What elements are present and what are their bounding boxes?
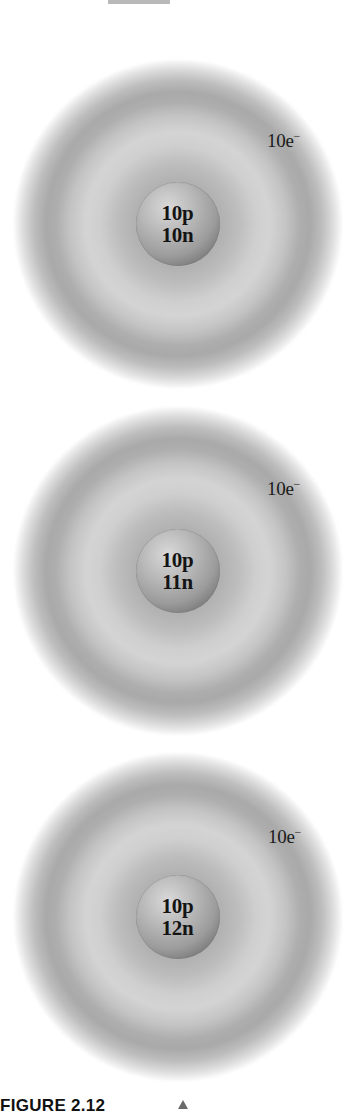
negative-charge-symbol: −: [294, 477, 300, 491]
electron-count-label: 10e−: [267, 130, 300, 152]
proton-count: 10p: [162, 895, 194, 917]
electron-count-label: 10e−: [267, 478, 300, 500]
atom-diagram-2: 10p 11n 10e−: [0, 401, 355, 741]
nucleus: 10p 10n: [136, 182, 220, 266]
figure-caption: FIGURE 2.12: [0, 1096, 105, 1115]
nucleus: 10p 12n: [136, 875, 220, 959]
electron-count-label: 10e−: [268, 826, 301, 848]
proton-count: 10p: [162, 549, 194, 571]
negative-charge-symbol: −: [295, 825, 301, 839]
atom-diagram-3: 10p 12n 10e−: [0, 747, 355, 1087]
negative-charge-symbol: −: [294, 129, 300, 143]
neutron-count: 10n: [162, 224, 194, 246]
nucleus: 10p 11n: [136, 529, 220, 613]
proton-count: 10p: [162, 202, 194, 224]
top-bar-decoration: [108, 0, 170, 4]
caption-arrow-icon: [178, 1100, 188, 1109]
atom-diagram-1: 10p 10n 10e−: [0, 54, 355, 394]
neutron-count: 12n: [162, 917, 194, 939]
neutron-count: 11n: [162, 571, 193, 593]
